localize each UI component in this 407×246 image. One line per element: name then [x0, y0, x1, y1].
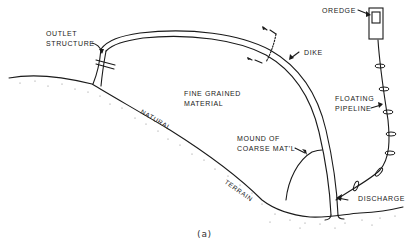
- dike-outer: [101, 31, 338, 215]
- label-outlet-structure-line2: STRUCTURE: [46, 39, 95, 48]
- arrowhead-pipeline: [378, 102, 383, 108]
- arrowhead-dike: [289, 54, 294, 60]
- section-arrow-top: [263, 27, 276, 34]
- mound-of-coarse-material: [286, 150, 322, 200]
- outlet-pipe-left: [93, 49, 101, 84]
- figure-caption: (a): [196, 229, 212, 239]
- label-natural: NATURAL: [140, 108, 173, 131]
- label-fine-grained-line1: FINE GRAINED: [184, 89, 241, 98]
- label-dredge: OREDGE: [322, 6, 356, 15]
- pipeline-float: [386, 132, 396, 136]
- dike-base: [325, 215, 331, 220]
- pipeline-float: [383, 110, 393, 114]
- pipeline-float: [352, 181, 359, 192]
- label-floating-pipeline-line2: PIPELINE: [335, 104, 371, 113]
- arrowhead-outlet: [99, 49, 104, 54]
- label-discharge: DISCHARGE: [358, 194, 405, 203]
- label-outlet-structure-line1: OUTLET: [46, 29, 77, 38]
- label-mound-line2: COARSE MAT'L: [237, 144, 295, 153]
- outlet-pipe-right: [101, 51, 106, 86]
- dike-inner: [106, 36, 331, 215]
- label-fine-grained-line2: MATERIAL: [184, 99, 223, 108]
- pipeline-float: [374, 167, 383, 177]
- label-terrain: TERRAIN: [223, 178, 254, 203]
- label-floating-pipeline-line1: FLOATING: [335, 94, 374, 103]
- pipeline-float: [385, 151, 395, 155]
- label-dike: DIKE: [304, 48, 323, 57]
- dredge-icon: [369, 8, 383, 39]
- label-mound-line1: MOUND OF: [237, 134, 280, 143]
